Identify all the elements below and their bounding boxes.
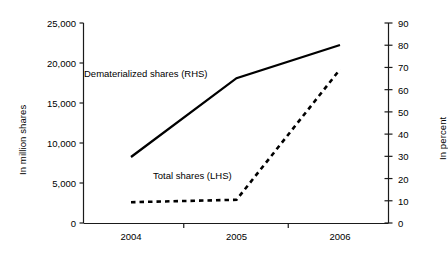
axis-lines [84, 23, 389, 224]
series-lines [131, 45, 340, 202]
series-line-total [131, 69, 340, 202]
series-line-dematerialized [131, 45, 340, 157]
